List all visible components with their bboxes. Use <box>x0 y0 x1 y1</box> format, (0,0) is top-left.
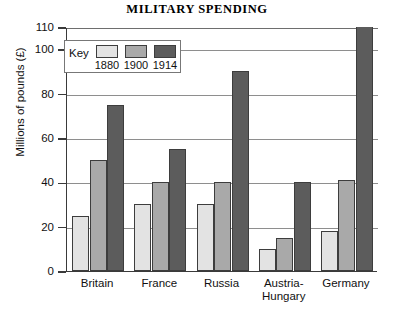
legend: Key188019001914 <box>64 40 181 73</box>
x-axis-label-0: Britain <box>66 277 128 290</box>
bar-austriahungary-1880 <box>259 249 276 271</box>
bar-russia-1914 <box>232 71 249 271</box>
bar-france-1914 <box>169 149 186 271</box>
x-axis-label-3: Austria- Hungary <box>253 277 315 303</box>
y-tick-mark-60 <box>58 138 66 140</box>
bar-britain-1880 <box>72 216 89 271</box>
y-tick-label-110: 110 <box>36 22 54 34</box>
x-axis-label-2: Russia <box>190 277 252 290</box>
y-tick-label-0: 0 <box>48 266 54 278</box>
bar-austriahungary-1900 <box>276 238 293 271</box>
y-tick-mark-40 <box>58 183 66 185</box>
bar-russia-1880 <box>197 204 214 271</box>
gridline-80 <box>67 95 378 96</box>
legend-swatch-1914 <box>154 45 176 58</box>
gridline-110 <box>67 28 378 29</box>
y-tick-mark-20 <box>58 227 66 229</box>
legend-year-1900: 1900 <box>122 59 150 71</box>
bar-france-1880 <box>134 204 151 271</box>
legend-swatch-1900 <box>125 45 147 58</box>
legend-swatch-1880 <box>96 45 118 58</box>
bar-france-1900 <box>152 182 169 271</box>
bar-russia-1900 <box>214 182 231 271</box>
y-tick-label-40: 40 <box>41 177 54 189</box>
bar-austriahungary-1914 <box>294 182 311 271</box>
bar-britain-1900 <box>90 160 107 271</box>
y-tick-mark-0 <box>58 271 66 273</box>
x-axis-label-1: France <box>128 277 190 290</box>
y-tick-label-100: 100 <box>35 44 54 56</box>
y-tick-label-60: 60 <box>41 133 54 145</box>
y-tick-label-20: 20 <box>41 222 54 234</box>
bar-germany-1914 <box>356 27 373 271</box>
y-axis: Millions of pounds (£) 020406080100110 <box>0 0 66 316</box>
y-tick-mark-80 <box>58 94 66 96</box>
bar-britain-1914 <box>107 105 124 271</box>
y-axis-title: Millions of pounds (£) <box>14 22 26 182</box>
legend-year-1880: 1880 <box>93 59 121 71</box>
bar-germany-1900 <box>338 180 355 271</box>
bar-germany-1880 <box>321 231 338 271</box>
y-tick-label-80: 80 <box>41 89 54 101</box>
y-tick-mark-110 <box>58 27 66 29</box>
legend-year-1914: 1914 <box>151 59 179 71</box>
x-axis-label-4: Germany <box>315 277 377 290</box>
legend-key-label: Key <box>69 47 89 59</box>
